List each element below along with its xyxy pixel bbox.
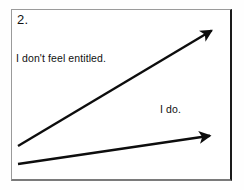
panel-number-label: 2. — [17, 13, 28, 26]
annotation-upper-label: I don't feel entitled. — [16, 53, 106, 64]
annotation-lower-label: I do. — [160, 104, 181, 115]
diagram-canvas: 2. I don't feel entitled. I do. — [0, 0, 244, 190]
diagram-frame — [11, 9, 232, 181]
